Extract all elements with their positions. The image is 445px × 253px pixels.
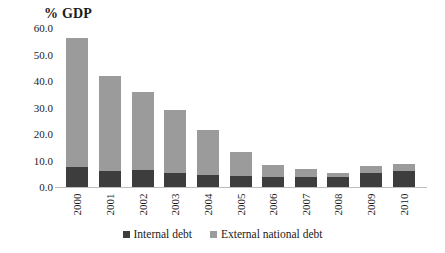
bar-segment-internal-debt[interactable] bbox=[393, 171, 415, 187]
x-axis-tick-label: 2006 bbox=[262, 188, 284, 210]
x-axis-tick-label: 2004 bbox=[197, 188, 219, 210]
legend-label: External national debt bbox=[221, 228, 323, 240]
x-axis-tick-label: 2008 bbox=[327, 188, 349, 210]
y-axis-tick-label: 60.0 bbox=[34, 23, 53, 34]
bar-group[interactable] bbox=[360, 28, 382, 187]
y-axis-tick-label: 30.0 bbox=[34, 102, 53, 113]
bar-segment-internal-debt[interactable] bbox=[360, 173, 382, 187]
bar-segment-external-debt[interactable] bbox=[132, 92, 154, 171]
bar-group[interactable] bbox=[230, 28, 252, 187]
bar-segment-external-debt[interactable] bbox=[262, 165, 284, 177]
bar-group[interactable] bbox=[393, 28, 415, 187]
bar-segment-external-debt[interactable] bbox=[66, 38, 88, 167]
bar-segment-external-debt[interactable] bbox=[393, 164, 415, 171]
x-axis-tick-label: 2009 bbox=[360, 188, 382, 210]
bar-group[interactable] bbox=[66, 28, 88, 187]
bar-group[interactable] bbox=[164, 28, 186, 187]
bar-segment-internal-debt[interactable] bbox=[230, 176, 252, 187]
bar-segment-internal-debt[interactable] bbox=[99, 171, 121, 187]
bar-segment-external-debt[interactable] bbox=[197, 130, 219, 175]
x-axis-tick-label: 2010 bbox=[393, 188, 415, 210]
y-axis-tick-label: 0.0 bbox=[39, 182, 53, 193]
y-axis-tick-label: 20.0 bbox=[34, 129, 53, 140]
x-axis-tick-label: 2005 bbox=[230, 188, 252, 210]
x-axis-tick-label: 2007 bbox=[295, 188, 317, 210]
legend-label: Internal debt bbox=[134, 228, 192, 240]
bar-segment-external-debt[interactable] bbox=[360, 166, 382, 173]
bar-group[interactable] bbox=[197, 28, 219, 187]
y-axis: 60.050.040.030.020.010.00.0 bbox=[0, 0, 58, 253]
y-axis-tick-label: 10.0 bbox=[34, 155, 53, 166]
x-axis: 2000200120022003200420052006200720082009… bbox=[61, 188, 420, 224]
bar-segment-external-debt[interactable] bbox=[295, 169, 317, 177]
bar-segment-external-debt[interactable] bbox=[230, 152, 252, 176]
legend-item[interactable]: External national debt bbox=[210, 228, 323, 240]
bar-group[interactable] bbox=[327, 28, 349, 187]
bar-group[interactable] bbox=[262, 28, 284, 187]
bar-group[interactable] bbox=[132, 28, 154, 187]
bar-group[interactable] bbox=[99, 28, 121, 187]
bar-segment-external-debt[interactable] bbox=[99, 76, 121, 171]
bar-group[interactable] bbox=[295, 28, 317, 187]
bar-segment-internal-debt[interactable] bbox=[132, 170, 154, 187]
x-axis-tick-label: 2002 bbox=[132, 188, 154, 210]
bar-segment-internal-debt[interactable] bbox=[295, 177, 317, 187]
x-axis-tick-label: 2003 bbox=[164, 188, 186, 210]
y-axis-tick-label: 50.0 bbox=[34, 49, 53, 60]
plot-area bbox=[61, 28, 420, 187]
y-axis-tick-label: 40.0 bbox=[34, 76, 53, 87]
bar-segment-internal-debt[interactable] bbox=[197, 175, 219, 187]
stacked-bar-chart: % GDP 60.050.040.030.020.010.00.0 200020… bbox=[0, 0, 445, 253]
x-axis-tick-label: 2001 bbox=[99, 188, 121, 210]
bar-segment-internal-debt[interactable] bbox=[327, 177, 349, 187]
legend-swatch-icon bbox=[123, 231, 130, 238]
bar-segment-external-debt[interactable] bbox=[164, 110, 186, 173]
bar-segment-internal-debt[interactable] bbox=[164, 173, 186, 187]
bar-segment-internal-debt[interactable] bbox=[262, 177, 284, 187]
x-axis-tick-label: 2000 bbox=[66, 188, 88, 210]
bar-segment-internal-debt[interactable] bbox=[66, 167, 88, 187]
chart-legend: Internal debtExternal national debt bbox=[0, 228, 445, 240]
legend-swatch-icon bbox=[210, 231, 217, 238]
legend-item[interactable]: Internal debt bbox=[123, 228, 192, 240]
